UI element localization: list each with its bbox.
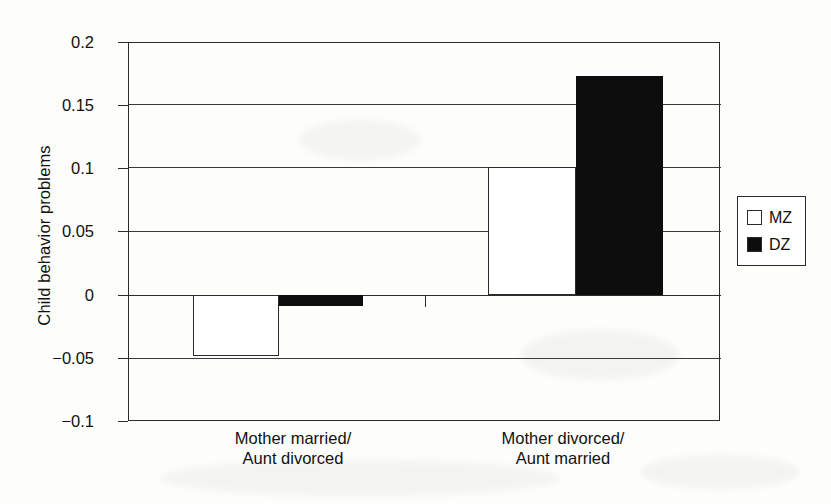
y-tick-label: 0.2: [71, 33, 94, 52]
legend-entry-dz: DZ: [747, 231, 805, 258]
x-category-label-group-2: Mother divorced/ Aunt married: [428, 428, 698, 468]
category-separator-tick: [425, 296, 426, 307]
legend-swatch-dz-icon: [747, 237, 762, 252]
bar-dz-mother-married-aunt-divorced: [279, 295, 363, 306]
x-category-line-1: Mother married/: [158, 428, 428, 448]
y-tick-label: 0.1: [71, 159, 94, 178]
y-tick-label: 0: [85, 286, 94, 305]
legend: MZ DZ: [737, 196, 806, 266]
gridline--0.05: [129, 358, 721, 359]
y-tick-mark: [118, 105, 128, 106]
y-tick-mark: [118, 168, 128, 169]
y-tick-mark: [118, 358, 128, 359]
legend-label-dz: DZ: [769, 237, 790, 253]
legend-label-mz: MZ: [769, 210, 792, 226]
bar-mz-mother-divorced-aunt-married: [488, 167, 576, 295]
y-tick-mark: [118, 42, 128, 43]
y-tick-mark: [118, 295, 128, 296]
y-tick-mark: [118, 231, 128, 232]
bar-dz-mother-divorced-aunt-married: [576, 76, 663, 295]
x-category-line-2: Aunt married: [428, 448, 698, 468]
y-tick-label: −0.1: [61, 412, 94, 431]
y-tick-mark: [118, 421, 128, 422]
y-tick-label: −0.05: [52, 349, 94, 368]
plot-area: [128, 42, 720, 421]
legend-swatch-mz-icon: [747, 210, 762, 225]
legend-entry-mz: MZ: [747, 204, 805, 231]
bar-mz-mother-married-aunt-divorced: [193, 295, 279, 356]
y-axis-title: Child behavior problems: [35, 86, 54, 386]
x-category-line-2: Aunt divorced: [158, 448, 428, 468]
x-category-line-1: Mother divorced/: [428, 428, 698, 448]
y-tick-label: 0.05: [62, 222, 94, 241]
bar-chart-figure: Child behavior problems 0.2 0.15 0.1 0.0…: [0, 0, 831, 504]
x-category-label-group-1: Mother married/ Aunt divorced: [158, 428, 428, 468]
y-tick-label: 0.15: [62, 96, 94, 115]
